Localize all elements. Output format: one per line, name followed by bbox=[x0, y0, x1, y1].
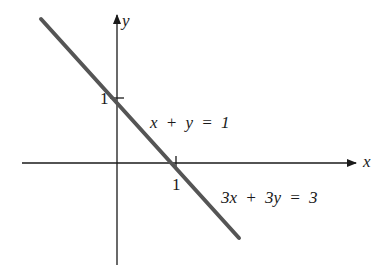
x-tick-label: 1 bbox=[172, 176, 181, 193]
diagram-canvas bbox=[0, 0, 379, 274]
y-tick-label: 1 bbox=[100, 90, 109, 107]
x-axis-label: x bbox=[363, 153, 371, 170]
equation-label-1: x + y = 1 bbox=[150, 114, 230, 131]
y-axis-label: y bbox=[122, 12, 130, 29]
diagram: y x 1 1 x + y = 1 3x + 3y = 3 bbox=[0, 0, 379, 274]
equation-label-2: 3x + 3y = 3 bbox=[221, 189, 318, 206]
